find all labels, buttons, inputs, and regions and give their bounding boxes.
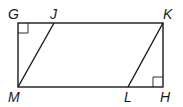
rectangle-GKHM (18, 23, 163, 87)
right-angle-marker-H (153, 77, 163, 87)
label-K: K (163, 6, 173, 22)
label-H: H (160, 89, 171, 105)
label-G: G (8, 6, 19, 22)
label-M: M (8, 89, 20, 105)
label-L: L (124, 89, 132, 105)
right-angle-marker-G (18, 23, 28, 33)
label-J: J (49, 6, 58, 22)
geometry-diagram: G J K M L H (0, 0, 183, 107)
